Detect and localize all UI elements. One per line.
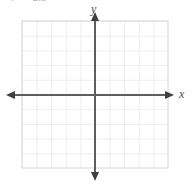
x-axis-left-arrowhead [6, 91, 15, 99]
coordinate-plane-svg: y x [0, 0, 194, 185]
x-axis-label: x [178, 87, 185, 101]
coordinate-grid-figure: 4 2.5 [0, 0, 194, 185]
x-axis-right-arrowhead [165, 91, 174, 99]
y-axis-label: y [90, 2, 97, 16]
y-axis-bottom-arrowhead [91, 172, 99, 181]
plot-area: y x [0, 0, 194, 185]
